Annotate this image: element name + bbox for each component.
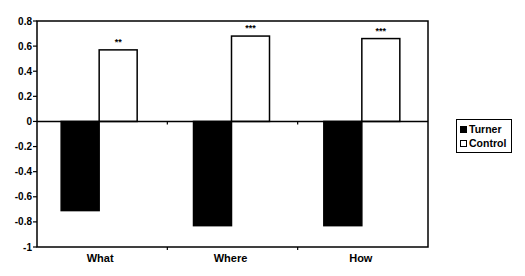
bar-turner-where xyxy=(194,121,232,225)
x-category-label: What xyxy=(87,252,114,264)
y-tick-label: 0.6 xyxy=(18,41,32,52)
legend-label-turner: Turner xyxy=(469,123,501,135)
legend-item-control: Control xyxy=(460,136,508,150)
y-tick-label: 0 xyxy=(26,116,32,127)
bar-control-how xyxy=(362,39,400,122)
legend-item-turner: Turner xyxy=(460,122,508,136)
y-tick-label: 0.2 xyxy=(18,91,32,102)
legend-label-control: Control xyxy=(469,137,506,149)
bar-turner-how xyxy=(324,121,362,225)
y-tick-label: -0.4 xyxy=(15,166,33,177)
legend-swatch-turner xyxy=(460,126,467,133)
x-category-label: Where xyxy=(214,252,248,264)
significance-marker: ** xyxy=(115,37,123,47)
y-tick-label: 0.8 xyxy=(18,16,32,27)
y-tick-label: -0.2 xyxy=(15,141,33,152)
legend: Turner Control xyxy=(456,119,512,153)
bar-control-where xyxy=(232,36,270,121)
y-tick-label: -0.6 xyxy=(15,191,33,202)
bar-control-what xyxy=(99,50,137,122)
bar-turner-what xyxy=(61,121,99,210)
legend-swatch-control xyxy=(460,140,467,147)
y-tick-label: 0.4 xyxy=(18,66,32,77)
x-category-label: How xyxy=(349,252,373,264)
significance-marker: *** xyxy=(245,23,256,33)
y-tick-label: -0.8 xyxy=(15,216,33,227)
bar-chart: 0.80.60.40.20-0.2-0.4-0.6-0.8-1**What***… xyxy=(0,0,525,276)
significance-marker: *** xyxy=(376,26,387,36)
y-tick-label: -1 xyxy=(23,242,32,253)
